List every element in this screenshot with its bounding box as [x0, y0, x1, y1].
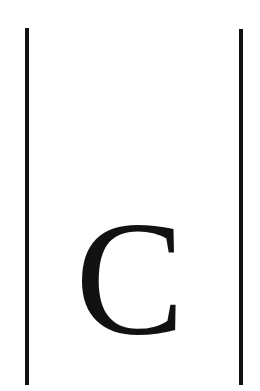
letter-glyph: C	[0, 196, 260, 360]
right-vertical-bar	[239, 29, 243, 385]
